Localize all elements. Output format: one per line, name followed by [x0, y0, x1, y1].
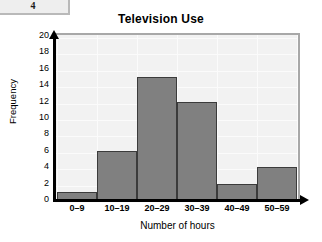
histogram-bar [257, 167, 297, 200]
y-axis-tick-label: 18 [25, 47, 49, 56]
y-axis-tick-label: 6 [25, 146, 49, 155]
y-axis-tick-label: 0 [25, 195, 49, 204]
television-use-histogram: 4 Television Use 02468101214161820 0–910… [0, 0, 322, 242]
x-axis-line [53, 199, 302, 202]
x-axis-tick-label: 50–59 [251, 203, 303, 213]
histogram-bar [217, 184, 257, 200]
y-axis-tick-label: 8 [25, 129, 49, 138]
y-axis-tick-label: 16 [25, 64, 49, 73]
y-axis-title: Frequency [7, 57, 18, 147]
histogram-bar [137, 77, 177, 200]
histogram-bar [97, 151, 137, 200]
histogram-bar [177, 102, 217, 200]
y-axis-tick-label: 14 [25, 80, 49, 89]
chart-title: Television Use [0, 12, 322, 26]
bars-group [55, 33, 300, 200]
y-axis-arrow-icon [49, 30, 59, 39]
y-axis-line [53, 38, 56, 202]
y-axis-tick-label: 10 [25, 113, 49, 122]
y-axis-tick-label: 20 [25, 31, 49, 40]
y-axis-tick-label: 2 [25, 179, 49, 188]
y-axis-tick-label: 4 [25, 162, 49, 171]
x-axis-title: Number of hours [55, 220, 300, 231]
y-axis-tick-label: 12 [25, 97, 49, 106]
page-number-label: 4 [0, 0, 66, 11]
